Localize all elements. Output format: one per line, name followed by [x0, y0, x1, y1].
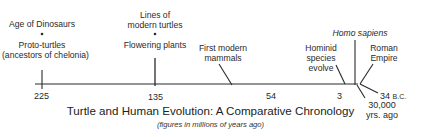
- diagram-subtitle: (figures in millions of years ago): [0, 120, 421, 129]
- tick-label-225: 225: [34, 91, 49, 101]
- label-homo-sapiens: Homo sapiens: [325, 28, 395, 38]
- label-lines-of: Lines of: [115, 10, 195, 20]
- label-modern-turtles: modern turtles: [115, 20, 195, 30]
- tick-label-135: 135: [148, 92, 163, 102]
- label-mammals: mammals: [188, 53, 258, 63]
- dot-135: [154, 33, 157, 36]
- tick-label-3: 3: [337, 91, 342, 101]
- tick-30000: [357, 85, 365, 98]
- label-proto-turtles: Proto-turtles: [2, 40, 82, 50]
- diagram-title: Turtle and Human Evolution: A Comparativ…: [0, 104, 421, 117]
- dot-225: [41, 33, 44, 36]
- tick-34bc: [360, 84, 378, 93]
- label-ancestors-of-chelonia: (ancestors of chelonia): [2, 50, 82, 60]
- label-roman: Roman: [362, 43, 406, 53]
- tick-34bc-unit: B.C.: [393, 93, 407, 100]
- tick-54: [219, 64, 232, 85]
- label-evolve: evolve: [296, 63, 346, 73]
- tick-roman-empire: [360, 64, 373, 84]
- label-hominid: Hominid: [296, 43, 346, 53]
- label-empire: Empire: [362, 53, 406, 63]
- label-first-modern: First modern: [188, 43, 258, 53]
- tick-label-54: 54: [266, 91, 276, 101]
- label-age-of-dinosaurs: Age of Dinosaurs: [2, 19, 82, 29]
- label-flowering-plants: Flowering plants: [115, 40, 195, 50]
- label-species: species: [296, 53, 346, 63]
